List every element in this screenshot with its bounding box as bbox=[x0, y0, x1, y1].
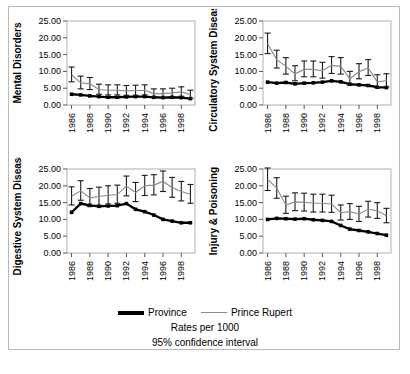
province-marker bbox=[143, 210, 147, 214]
x-tick-label: 1994 bbox=[336, 113, 346, 133]
x-tick-label: 1990 bbox=[103, 113, 113, 133]
x-tick-label: 1998 bbox=[176, 113, 186, 133]
x-tick-label: 1996 bbox=[158, 113, 168, 133]
plot-area bbox=[67, 169, 195, 253]
province-marker bbox=[125, 202, 129, 206]
x-tick-label: 1996 bbox=[354, 113, 364, 133]
province-marker bbox=[266, 80, 270, 84]
y-tick-label: 25.00 bbox=[38, 164, 61, 174]
y-axis-label: Injury & Poisoning bbox=[208, 167, 219, 255]
province-marker bbox=[311, 218, 315, 222]
province-marker bbox=[275, 217, 279, 221]
x-tick-label: 1986 bbox=[263, 113, 273, 133]
province-marker bbox=[134, 208, 138, 212]
province-marker bbox=[385, 233, 389, 237]
y-tick-label: 5.00 bbox=[239, 83, 257, 93]
province-marker bbox=[97, 95, 101, 99]
x-tick-label: 1986 bbox=[67, 261, 77, 281]
legend-row: Province Prince Rupert bbox=[9, 305, 401, 320]
province-marker bbox=[302, 81, 306, 85]
province-marker bbox=[366, 230, 370, 234]
province-marker bbox=[293, 82, 297, 86]
province-marker bbox=[321, 219, 325, 223]
province-marker bbox=[330, 79, 334, 83]
x-tick-label: 1988 bbox=[281, 113, 291, 133]
y-tick-label: 15.00 bbox=[38, 198, 61, 208]
y-tick-label: 0.00 bbox=[43, 100, 61, 110]
x-tick-label: 1992 bbox=[121, 113, 131, 133]
plot-area bbox=[263, 169, 391, 253]
x-tick-label: 1996 bbox=[158, 261, 168, 281]
legend-label-prince-rupert: Prince Rupert bbox=[231, 307, 292, 318]
province-marker bbox=[357, 83, 361, 87]
province-marker bbox=[115, 204, 119, 208]
x-tick-label: 1992 bbox=[317, 261, 327, 281]
x-tick-label: 1990 bbox=[103, 261, 113, 281]
x-tick-label: 1994 bbox=[140, 113, 150, 133]
caption-confidence-interval: 95% confidence interval bbox=[9, 335, 401, 350]
panel-mental-disorders: 0.005.0010.0015.0020.0025.00198619881990… bbox=[9, 9, 205, 157]
x-tick-label: 1998 bbox=[176, 261, 186, 281]
chart-svg: 0.005.0010.0015.0020.0025.00198619881990… bbox=[205, 157, 401, 305]
y-axis-label: Digestive System Diseases bbox=[12, 157, 23, 275]
y-tick-label: 0.00 bbox=[239, 248, 257, 258]
x-tick-label: 1988 bbox=[85, 261, 95, 281]
province-marker bbox=[88, 94, 92, 98]
province-marker bbox=[311, 81, 315, 85]
province-marker bbox=[266, 218, 270, 222]
y-tick-label: 10.00 bbox=[38, 214, 61, 224]
y-tick-label: 15.00 bbox=[234, 50, 257, 60]
y-tick-label: 0.00 bbox=[43, 248, 61, 258]
province-marker bbox=[170, 219, 174, 223]
province-marker bbox=[348, 227, 352, 231]
y-tick-label: 10.00 bbox=[38, 66, 61, 76]
province-marker bbox=[179, 221, 183, 225]
legend-item-province: Province bbox=[118, 307, 187, 318]
x-tick-label: 1990 bbox=[299, 261, 309, 281]
x-tick-label: 1988 bbox=[281, 261, 291, 281]
province-marker bbox=[70, 92, 74, 96]
province-marker bbox=[293, 217, 297, 221]
legend-label-province: Province bbox=[148, 307, 187, 318]
panel-injury-and-poisoning: 0.005.0010.0015.0020.0025.00198619881990… bbox=[205, 157, 401, 305]
y-tick-label: 20.00 bbox=[38, 181, 61, 191]
province-marker bbox=[330, 220, 334, 224]
x-tick-label: 1994 bbox=[140, 261, 150, 281]
province-marker bbox=[161, 218, 165, 222]
province-marker bbox=[357, 229, 361, 233]
province-marker bbox=[79, 93, 83, 97]
y-tick-label: 0.00 bbox=[239, 100, 257, 110]
x-tick-label: 1992 bbox=[121, 261, 131, 281]
x-tick-label: 1986 bbox=[67, 113, 77, 133]
caption-rates: Rates per 1000 bbox=[9, 320, 401, 335]
province-marker bbox=[302, 217, 306, 221]
panel-digestive-system-diseases: 0.005.0010.0015.0020.0025.00198619881990… bbox=[9, 157, 205, 305]
province-marker bbox=[79, 202, 83, 206]
y-tick-label: 20.00 bbox=[38, 33, 61, 43]
x-tick-label: 1992 bbox=[317, 113, 327, 133]
legend-item-prince-rupert: Prince Rupert bbox=[201, 307, 292, 318]
y-tick-label: 10.00 bbox=[234, 214, 257, 224]
figure-frame: 0.005.0010.0015.0020.0025.00198619881990… bbox=[8, 6, 400, 350]
y-tick-label: 25.00 bbox=[234, 16, 257, 26]
chart-svg: 0.005.0010.0015.0020.0025.00198619881990… bbox=[9, 9, 205, 157]
province-line-swatch bbox=[118, 311, 144, 315]
province-marker bbox=[106, 204, 110, 208]
y-tick-label: 5.00 bbox=[43, 83, 61, 93]
province-marker bbox=[275, 81, 279, 85]
y-axis-label: Mental Disorders bbox=[12, 22, 23, 104]
x-tick-label: 1996 bbox=[354, 261, 364, 281]
province-marker bbox=[70, 211, 74, 215]
x-tick-label: 1998 bbox=[372, 113, 382, 133]
province-marker bbox=[339, 224, 343, 228]
province-marker bbox=[152, 213, 156, 217]
y-tick-label: 15.00 bbox=[234, 198, 257, 208]
bottom-caption-cropped bbox=[10, 362, 400, 374]
province-marker bbox=[339, 80, 343, 84]
y-tick-label: 5.00 bbox=[43, 231, 61, 241]
chart-svg: 0.005.0010.0015.0020.0025.00198619881990… bbox=[9, 157, 205, 305]
province-marker bbox=[106, 95, 110, 99]
y-tick-label: 25.00 bbox=[234, 164, 257, 174]
prince-rupert-line-swatch bbox=[201, 312, 227, 313]
chart-svg: 0.005.0010.0015.0020.0025.00198619881990… bbox=[205, 9, 401, 157]
